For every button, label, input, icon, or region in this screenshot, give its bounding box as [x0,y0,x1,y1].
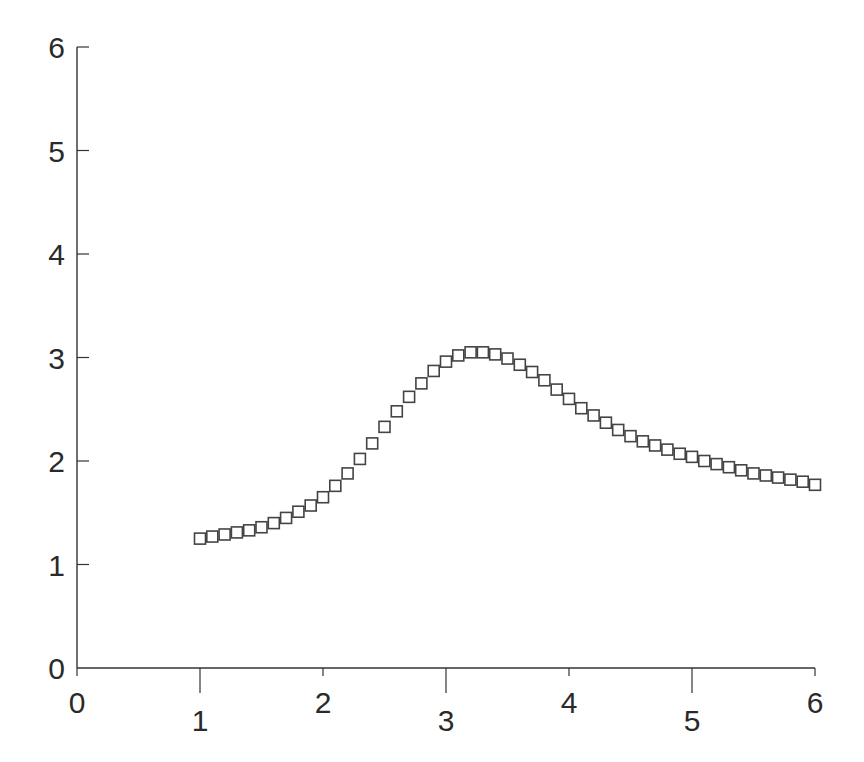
data-point-marker [600,417,611,428]
data-point-marker [760,470,771,481]
data-point-marker [256,522,267,533]
data-point-marker [564,393,575,404]
data-point-marker [231,527,242,538]
data-point-marker [711,459,722,470]
data-series [195,347,821,544]
data-point-marker [514,359,525,370]
data-point-marker [797,476,808,487]
x-tick-label: 0 [69,686,86,719]
x-tick-label: 2 [315,686,332,719]
data-point-marker [527,366,538,377]
y-tick-label: 3 [48,342,65,375]
y-tick-label: 6 [48,31,65,64]
y-tick-label: 4 [48,238,65,271]
y-tick-label: 5 [48,135,65,168]
data-point-marker [219,529,230,540]
data-point-marker [207,531,218,542]
data-point-marker [650,440,661,451]
data-point-marker [674,448,685,459]
data-point-marker [810,479,821,490]
data-point-marker [736,465,747,476]
data-point-marker [465,347,476,358]
data-point-marker [637,436,648,447]
x-tick-label: 5 [684,704,701,737]
data-point-marker [773,472,784,483]
x-tick-label: 6 [807,686,824,719]
y-axis: 0123456 [48,31,89,685]
y-tick-label: 2 [48,445,65,478]
data-point-marker [268,518,279,529]
data-point-marker [391,406,402,417]
x-ticks: 0123456 [69,668,824,737]
x-tick-label: 4 [561,686,578,719]
data-point-marker [244,525,255,536]
data-point-marker [539,375,550,386]
data-point-marker [342,468,353,479]
data-point-marker [748,468,759,479]
data-point-marker [699,456,710,467]
data-point-marker [318,492,329,503]
data-point-marker [477,347,488,358]
data-point-marker [441,356,452,367]
data-point-marker [354,453,365,464]
x-tick-label: 3 [438,704,455,737]
data-point-marker [428,365,439,376]
y-tick-label: 1 [48,549,65,582]
data-point-marker [662,444,673,455]
data-point-marker [785,474,796,485]
data-point-marker [281,512,292,523]
data-point-marker [723,462,734,473]
data-point-marker [330,480,341,491]
data-point-marker [625,431,636,442]
data-point-marker [379,421,390,432]
data-point-marker [576,403,587,414]
y-ticks: 0123456 [48,31,89,685]
x-axis: 0123456 [69,668,824,737]
data-point-marker [687,451,698,462]
data-point-marker [305,500,316,511]
data-point-marker [502,353,513,364]
data-point-marker [293,506,304,517]
data-point-marker [588,410,599,421]
data-point-marker [416,378,427,389]
scatter-chart: 0123456 0123456 [0,0,864,762]
data-point-marker [195,533,206,544]
data-point-marker [453,350,464,361]
data-point-marker [490,349,501,360]
data-point-marker [551,384,562,395]
x-tick-label: 1 [192,704,209,737]
data-point-marker [367,438,378,449]
data-point-marker [404,391,415,402]
y-tick-label: 0 [48,652,65,685]
data-point-marker [613,424,624,435]
